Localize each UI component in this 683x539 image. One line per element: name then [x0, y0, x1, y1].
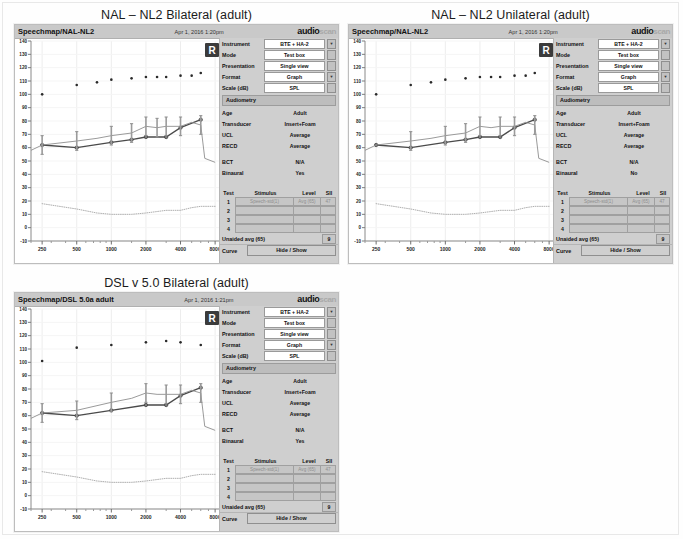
control-row-format: FormatGraph▼: [220, 339, 338, 350]
sii-cell[interactable]: [655, 206, 670, 215]
stimulus-cell[interactable]: [235, 492, 294, 501]
control-value[interactable]: Test box: [264, 50, 325, 60]
chevron-down-icon[interactable]: ▼: [661, 72, 670, 82]
chevron-down-icon[interactable]: ▼: [661, 39, 670, 49]
sii-cell[interactable]: [321, 474, 336, 483]
audiometry-value[interactable]: N/A: [264, 426, 336, 434]
audiometry-value[interactable]: Yes: [264, 437, 336, 445]
control-value[interactable]: Graph: [264, 340, 325, 350]
level-cell[interactable]: [294, 474, 321, 483]
control-value[interactable]: BTE + HA-2: [598, 39, 659, 49]
x-axis-tick-label: 250: [372, 246, 381, 252]
control-value[interactable]: Graph: [264, 72, 325, 82]
spinner-box-icon[interactable]: [327, 61, 336, 71]
spinner-box-icon[interactable]: [327, 83, 336, 93]
screen-title-label: Speechmap/NAL-NL2: [349, 27, 428, 36]
sii-cell[interactable]: [321, 224, 336, 233]
chevron-down-icon[interactable]: ▼: [327, 39, 336, 49]
control-value[interactable]: Single view: [264, 61, 325, 71]
hide-show-button[interactable]: Hide / Show: [247, 513, 336, 524]
spinner-box-icon[interactable]: [327, 50, 336, 60]
audiometry-value[interactable]: N/A: [264, 158, 336, 166]
sii-cell[interactable]: [321, 215, 336, 224]
chevron-down-icon[interactable]: ▼: [327, 72, 336, 82]
audiometry-value[interactable]: Average: [264, 131, 336, 139]
ucl-data-point: [524, 74, 527, 77]
audiometry-label: UCL: [222, 400, 262, 406]
chevron-down-icon[interactable]: ▼: [327, 340, 336, 350]
ucl-data-point: [444, 78, 447, 81]
stimulus-cell[interactable]: Speech-std(1): [235, 197, 294, 206]
stimulus-cell[interactable]: [235, 474, 294, 483]
y-axis-tick-label: 100: [353, 92, 361, 97]
audiometry-label: UCL: [222, 132, 262, 138]
level-cell[interactable]: Avg (65): [628, 197, 655, 206]
sii-cell[interactable]: [655, 215, 670, 224]
control-value[interactable]: Test box: [264, 318, 325, 328]
audiometry-value[interactable]: Adult: [264, 109, 336, 117]
stimulus-cell[interactable]: [235, 224, 294, 233]
spinner-box-icon[interactable]: [327, 318, 336, 328]
audiometry-value[interactable]: Average: [598, 142, 670, 150]
spinner-box-icon[interactable]: [661, 83, 670, 93]
level-cell[interactable]: [628, 215, 655, 224]
control-value[interactable]: SPL: [264, 351, 325, 361]
test-number: 1: [556, 199, 569, 205]
level-cell[interactable]: [628, 206, 655, 215]
level-cell[interactable]: [294, 224, 321, 233]
sii-cell[interactable]: [321, 483, 336, 492]
audiometry-value[interactable]: Average: [598, 131, 670, 139]
stimulus-cell[interactable]: [235, 215, 294, 224]
control-value[interactable]: BTE + HA-2: [264, 39, 325, 49]
stimulus-cell[interactable]: [569, 215, 628, 224]
audiometry-value[interactable]: Average: [264, 410, 336, 418]
control-value[interactable]: BTE + HA-2: [264, 307, 325, 317]
control-value[interactable]: Test box: [598, 50, 659, 60]
sii-cell[interactable]: [321, 492, 336, 501]
spinner-box-icon[interactable]: [327, 329, 336, 339]
control-value[interactable]: SPL: [598, 83, 659, 93]
level-cell[interactable]: [294, 492, 321, 501]
level-cell[interactable]: Avg (65): [294, 465, 321, 474]
audiometry-value[interactable]: Insert+Foam: [598, 120, 670, 128]
audiometry-value[interactable]: Insert+Foam: [264, 388, 336, 396]
sii-cell[interactable]: 47: [321, 197, 336, 206]
control-value[interactable]: SPL: [264, 83, 325, 93]
control-label: Scale (dB): [222, 353, 262, 359]
spinner-box-icon[interactable]: [661, 50, 670, 60]
stimulus-cell[interactable]: [235, 206, 294, 215]
sii-cell[interactable]: 47: [321, 465, 336, 474]
audiometry-row-recd: RECDAverage: [220, 408, 338, 419]
level-cell[interactable]: [294, 483, 321, 492]
audiometry-value[interactable]: Average: [264, 399, 336, 407]
stimulus-cell[interactable]: [235, 483, 294, 492]
control-value[interactable]: Graph: [598, 72, 659, 82]
stimulus-cell[interactable]: Speech-std(1): [235, 465, 294, 474]
audiometry-value[interactable]: Yes: [264, 169, 336, 177]
settings-panel: InstrumentBTE + HA-2▼ModeTest boxPresent…: [219, 38, 338, 263]
stimulus-cell[interactable]: Speech-std(1): [569, 197, 628, 206]
hide-show-button[interactable]: Hide / Show: [247, 245, 336, 256]
logo-audio-text: audio: [297, 27, 319, 36]
audiometry-value[interactable]: Average: [264, 142, 336, 150]
hide-show-button[interactable]: Hide / Show: [581, 245, 670, 256]
level-cell[interactable]: [294, 215, 321, 224]
audiometry-value[interactable]: N/A: [598, 158, 670, 166]
audiometry-value[interactable]: Insert+Foam: [264, 120, 336, 128]
audiometry-value[interactable]: Adult: [598, 109, 670, 117]
audiometry-value[interactable]: No: [598, 169, 670, 177]
sii-cell[interactable]: [321, 206, 336, 215]
stimulus-cell[interactable]: [569, 206, 628, 215]
level-cell[interactable]: [628, 224, 655, 233]
level-cell[interactable]: Avg (65): [294, 197, 321, 206]
stimulus-cell[interactable]: [569, 224, 628, 233]
audiometry-value[interactable]: Adult: [264, 377, 336, 385]
control-value[interactable]: Single view: [264, 329, 325, 339]
chevron-down-icon[interactable]: ▼: [327, 307, 336, 317]
sii-cell[interactable]: 47: [655, 197, 670, 206]
level-cell[interactable]: [294, 206, 321, 215]
sii-cell[interactable]: [655, 224, 670, 233]
control-value[interactable]: Single view: [598, 61, 659, 71]
spinner-box-icon[interactable]: [661, 61, 670, 71]
spinner-box-icon[interactable]: [327, 351, 336, 361]
